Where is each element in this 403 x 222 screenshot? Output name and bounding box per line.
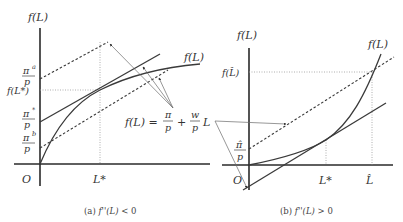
x-tick-lstar: L*	[92, 173, 106, 186]
isoprofit-pi-star	[40, 54, 160, 122]
pointer-line	[110, 44, 173, 108]
caption-b: (b) f''(L) > 0	[280, 206, 333, 216]
svg-text:+: +	[177, 116, 186, 129]
svg-text:π: π	[22, 65, 30, 76]
production-curve	[249, 54, 381, 165]
panel-a: f(L) f(L) O L* π a p f(L*) π * p π b p (…	[6, 11, 210, 216]
svg-text:b: b	[32, 130, 36, 138]
pointer-line	[159, 78, 173, 108]
pointer-line	[143, 67, 173, 108]
y-tick-pi-b: π b p	[22, 130, 36, 154]
origin-label: O	[22, 173, 31, 186]
y-axis-label: f(L)	[27, 11, 48, 24]
svg-text:π̂: π̂	[235, 139, 243, 150]
origin-label: O	[233, 174, 242, 187]
svg-text:*: *	[32, 106, 36, 114]
curve-label: f(L)	[183, 51, 204, 64]
svg-text:p: p	[192, 122, 198, 133]
y-tick-pi-star: π * p	[22, 106, 36, 130]
svg-text:p: p	[24, 119, 30, 130]
y-axis-label: f(L)	[236, 29, 257, 42]
isoprofit-equation: f(L) = π p + w p L	[124, 109, 210, 133]
curve-label: f(L)	[367, 38, 388, 51]
pointer-line	[215, 121, 286, 124]
svg-text:f(L) =: f(L) =	[124, 116, 158, 129]
y-tick-f-lhat: f(L̂)	[221, 67, 240, 78]
y-tick-f-lstar: f(L*)	[6, 85, 29, 96]
x-tick-lstar: L*	[318, 174, 332, 187]
svg-text:p: p	[237, 151, 243, 162]
svg-text:a: a	[32, 63, 36, 71]
isoprofit-pi-b	[40, 70, 168, 148]
diagram-canvas: f(L) f(L) O L* π a p f(L*) π * p π b p (…	[0, 0, 403, 222]
x-tick-lhat: L̂	[365, 174, 373, 187]
panel-b: f(L) f(L) O L* L̂ f(L̂) π̂ p (b) f''(L) …	[215, 29, 394, 216]
isoprofit-pi-a	[40, 42, 108, 79]
tangent-line	[243, 103, 386, 190]
production-curve	[40, 64, 200, 164]
y-tick-pi-a: π a p	[22, 63, 36, 87]
caption-a: (a) f''(L) < 0	[84, 206, 136, 216]
svg-text:p: p	[24, 143, 30, 154]
y-tick-pi-hat: π̂ p	[234, 139, 246, 162]
svg-text:π: π	[22, 108, 30, 119]
svg-text:π: π	[164, 109, 172, 120]
svg-text:L: L	[202, 116, 210, 129]
svg-text:w: w	[191, 109, 199, 120]
svg-text:π: π	[22, 132, 30, 143]
svg-text:p: p	[165, 122, 171, 133]
